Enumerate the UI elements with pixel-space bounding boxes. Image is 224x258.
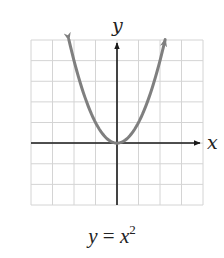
- caption-equals: =: [98, 224, 120, 248]
- parabola-graph: x y: [0, 0, 224, 258]
- axes: [31, 43, 200, 205]
- caption-lhs: y: [88, 224, 97, 248]
- x-axis-label: x: [207, 131, 218, 153]
- caption-exponent: 2: [129, 222, 136, 237]
- caption-base: x: [120, 224, 129, 248]
- y-axis-label: y: [111, 14, 123, 36]
- equation-caption: y = x2: [0, 222, 224, 249]
